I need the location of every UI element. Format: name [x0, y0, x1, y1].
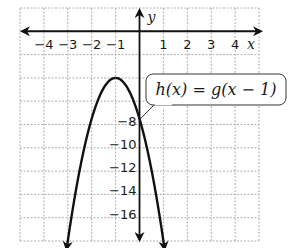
x-tick-label: 3 [207, 37, 215, 52]
y-tick-label: −14 [109, 183, 136, 198]
x-tick-label: 1 [159, 37, 167, 52]
coordinate-plane: −4−3−2−11234−8−10−12−14−16yx h(x) = g(x … [0, 0, 294, 248]
y-tick-label: −16 [109, 207, 136, 222]
x-tick-label: −3 [58, 37, 77, 52]
y-tick-label: −12 [109, 160, 136, 175]
x-tick-label: −1 [106, 37, 125, 52]
y-tick-label: −8 [117, 114, 136, 129]
y-axis-label: y [147, 9, 157, 25]
x-axis-label: x [247, 36, 255, 52]
x-tick-label: 2 [183, 37, 191, 52]
callout-label: h(x) = g(x − 1) [156, 80, 277, 99]
function-callout: h(x) = g(x − 1) [141, 74, 287, 119]
x-tick-label: −2 [82, 37, 101, 52]
callout-pointer [141, 104, 173, 119]
x-tick-label: −4 [34, 37, 53, 52]
x-tick-label: 4 [231, 37, 239, 52]
y-tick-label: −10 [109, 137, 136, 152]
